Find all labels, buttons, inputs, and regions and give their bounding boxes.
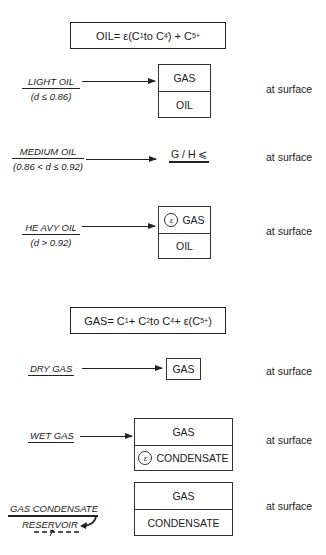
formula-part: to C (150, 315, 170, 327)
label-name: LIGHT OIL (22, 76, 80, 89)
formula-part: = ε(C (114, 30, 140, 42)
arrow-icon (82, 81, 155, 82)
location-label: at surface (266, 434, 312, 446)
cell-condensate: CONDENSATE (135, 509, 232, 535)
wet-gas-result-box: GAS εCONDENSATE (134, 418, 233, 471)
light-oil-label: LIGHT OIL (d ≤ 0.86) (22, 76, 80, 102)
cell-text: GAS (182, 214, 204, 226)
cell-condensate: εCONDENSATE (135, 445, 232, 470)
location-label: at surface (266, 151, 312, 163)
location-label: at surface (266, 365, 312, 377)
formula-part: ) (208, 315, 212, 327)
arrow-icon (82, 368, 162, 369)
formula-part: to C (144, 30, 164, 42)
cell-gas: GAS (159, 65, 210, 91)
gas-formula-box: GAS = C1 + C2 to C4 + ε(C5+) (70, 307, 226, 334)
label-name: HE AVY OIL (22, 222, 80, 235)
cell-oil: OIL (159, 233, 210, 258)
arrow-icon (82, 226, 155, 227)
cell-gas: GAS (167, 359, 200, 379)
arrow-icon (80, 436, 132, 437)
gas-oil-ratio-text: G / H ⩽ (169, 148, 209, 163)
formula-part: + ε(C (174, 315, 200, 327)
formula-part: ) + C (168, 30, 192, 42)
formula-lhs: OIL (96, 30, 114, 42)
heavy-oil-result-box: εGAS OIL (158, 206, 211, 259)
formula-part: + C (129, 315, 146, 327)
location-label: at surface (266, 225, 312, 237)
oil-formula-box: OIL = ε(C1 to C4) + C5+ (70, 22, 226, 49)
label-condition: (d ≤ 0.86) (22, 89, 80, 102)
superscript: + (196, 32, 200, 39)
dry-gas-result-box: GAS (166, 358, 201, 380)
arrow-icon (86, 159, 156, 160)
dry-gas-label: DRY GAS (28, 363, 74, 376)
light-oil-result-box: GAS OIL (158, 64, 211, 118)
epsilon-icon: ε (138, 451, 152, 465)
formula-lhs: GAS (84, 315, 107, 327)
label-condition: (0.86 < d ≤ 0.92) (12, 159, 84, 172)
heavy-oil-label: HE AVY OIL (d > 0.92) (22, 222, 80, 248)
cell-gas: εGAS (159, 207, 210, 233)
epsilon-icon: ε (164, 213, 178, 227)
label-name: DRY GAS (28, 363, 74, 376)
location-label: at surface (266, 500, 312, 512)
gas-condensate-result-box: GAS CONDENSATE (134, 482, 233, 536)
label-name: WET GAS (28, 430, 74, 443)
cell-gas: GAS (135, 483, 232, 509)
curved-arrow-icon (20, 514, 102, 536)
medium-oil-label: MEDIUM OIL (0.86 < d ≤ 0.92) (12, 146, 84, 172)
cell-oil: OIL (159, 91, 210, 117)
formula-part: = C (107, 315, 124, 327)
location-label: at surface (266, 83, 312, 95)
wet-gas-label: WET GAS (28, 430, 74, 443)
cell-text: CONDENSATE (156, 452, 228, 464)
label-name: MEDIUM OIL (12, 146, 84, 159)
label-condition: (d > 0.92) (22, 235, 80, 248)
cell-gas: GAS (135, 419, 232, 445)
